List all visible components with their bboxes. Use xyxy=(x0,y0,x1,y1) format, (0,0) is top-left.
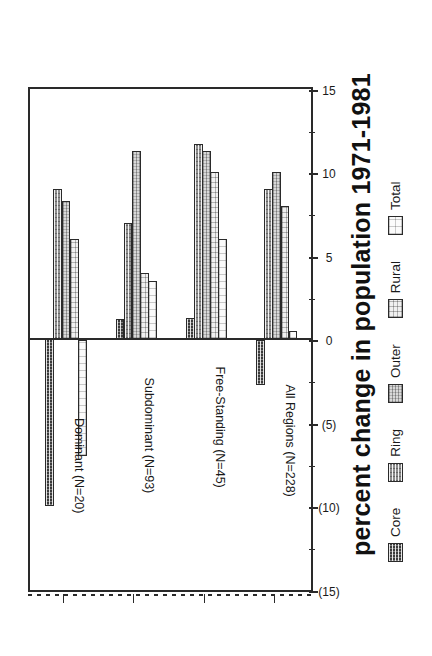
legend-label: Outer xyxy=(388,344,403,378)
legend-swatch-rural-icon xyxy=(388,299,403,318)
legend-item-outer[interactable]: Outer xyxy=(386,344,404,403)
category-tick xyxy=(204,594,205,603)
bar-rural-1 xyxy=(70,239,79,339)
category-label-4: All Regions (N=228) xyxy=(283,385,296,497)
bar-total-3 xyxy=(218,239,227,339)
value-tick-minor xyxy=(309,299,315,300)
category-label-3: Free-Standing (N=45) xyxy=(213,367,226,488)
chart-canvas: (15)(10)(5)051015 Dominant (N=20)Subdomi… xyxy=(0,0,432,656)
legend-swatch-total-icon xyxy=(388,216,403,235)
legend-item-rural[interactable]: Rural xyxy=(386,261,404,318)
legend-swatch-outer-icon xyxy=(388,384,403,403)
legend-item-total[interactable]: Total xyxy=(386,181,404,235)
value-axis-title: percent change in population 1971-1981 xyxy=(347,73,376,556)
category-label-1: Dominant (N=20) xyxy=(72,418,85,514)
legend-swatch-core-icon xyxy=(388,543,403,562)
value-tick-minor xyxy=(309,466,315,467)
category-label-2: Subdominant (N=93) xyxy=(143,378,156,494)
value-tick-label: 15 xyxy=(315,85,343,97)
legend-item-ring[interactable]: Ring xyxy=(386,429,404,482)
category-tick xyxy=(133,594,134,603)
value-tick-minor xyxy=(309,549,315,550)
category-tick xyxy=(274,594,275,603)
bar-rural-4 xyxy=(281,206,290,340)
legend-item-core[interactable]: Core xyxy=(386,508,404,562)
value-tick-label: (15) xyxy=(315,586,343,598)
value-tick-minor xyxy=(309,382,315,383)
value-tick-label: 10 xyxy=(315,169,343,181)
value-tick-minor xyxy=(309,215,315,216)
legend-label: Ring xyxy=(388,429,403,457)
legend-label: Core xyxy=(388,508,403,537)
value-tick-minor xyxy=(309,132,315,133)
bar-core-1 xyxy=(45,340,54,507)
legend-swatch-ring-icon xyxy=(388,463,403,482)
value-tick-label: (5) xyxy=(315,419,343,431)
value-tick-label: 0 xyxy=(315,336,343,348)
bar-core-4 xyxy=(256,340,265,385)
legend: CoreRingOuterRuralTotal xyxy=(385,155,404,562)
value-tick-label: 5 xyxy=(315,252,343,264)
zero-line xyxy=(28,339,313,341)
legend-label: Total xyxy=(388,181,403,210)
plot-area xyxy=(28,87,313,592)
bar-total-2 xyxy=(148,281,157,339)
value-tick-label: (10) xyxy=(315,503,343,515)
category-tick xyxy=(63,594,64,603)
legend-label: Rural xyxy=(388,261,403,293)
